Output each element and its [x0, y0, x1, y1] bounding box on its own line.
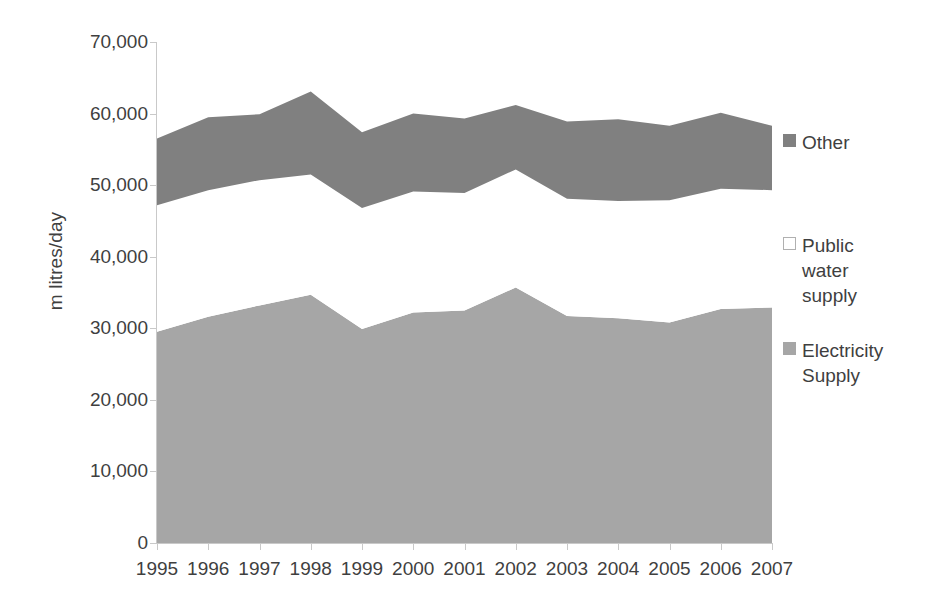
y-tick-mark — [150, 185, 156, 186]
x-tick-label: 2003 — [546, 558, 588, 580]
x-tick-label: 2006 — [700, 558, 742, 580]
x-tick-mark — [516, 544, 517, 550]
y-tick-label: 0 — [0, 532, 148, 554]
x-tick-mark — [362, 544, 363, 550]
legend-swatch-icon — [783, 237, 796, 250]
legend-swatch-icon — [783, 134, 796, 147]
x-tick-mark — [260, 544, 261, 550]
y-tick-mark — [150, 257, 156, 258]
x-tick-label: 2007 — [751, 558, 793, 580]
y-tick-label: 50,000 — [0, 174, 148, 196]
area-series-svg — [157, 42, 772, 543]
legend-entry[interactable]: Other — [783, 130, 850, 155]
stacked-area-chart: m litres/day 70,00060,00050,00040,00030,… — [0, 0, 933, 612]
x-tick-label: 1997 — [238, 558, 280, 580]
x-tick-mark — [311, 544, 312, 550]
y-tick-label: 40,000 — [0, 246, 148, 268]
plot-area — [157, 42, 772, 543]
y-tick-label: 60,000 — [0, 103, 148, 125]
x-tick-label: 2000 — [392, 558, 434, 580]
x-tick-mark — [721, 544, 722, 550]
y-tick-mark — [150, 114, 156, 115]
x-tick-mark — [413, 544, 414, 550]
x-tick-label: 2004 — [597, 558, 639, 580]
y-tick-label: 20,000 — [0, 389, 148, 411]
y-tick-mark — [150, 543, 156, 544]
x-tick-label: 1996 — [187, 558, 229, 580]
legend-label: Public water supply — [802, 233, 857, 308]
x-tick-label: 2005 — [648, 558, 690, 580]
x-tick-mark — [772, 544, 773, 550]
legend-entry[interactable]: Electricity Supply — [783, 338, 883, 388]
x-axis-tick-labels: 1995199619971998199920002001200220032004… — [0, 558, 933, 588]
x-tick-mark — [157, 544, 158, 550]
x-tick-mark — [465, 544, 466, 550]
x-tick-label: 1998 — [290, 558, 332, 580]
x-tick-label: 1995 — [136, 558, 178, 580]
y-tick-mark — [150, 400, 156, 401]
y-tick-label: 30,000 — [0, 317, 148, 339]
legend-swatch-icon — [783, 342, 796, 355]
x-tick-label: 2001 — [443, 558, 485, 580]
y-tick-mark — [150, 42, 156, 43]
y-tick-mark — [150, 471, 156, 472]
legend-entry[interactable]: Public water supply — [783, 233, 857, 308]
x-tick-mark — [208, 544, 209, 550]
x-tick-mark — [618, 544, 619, 550]
y-tick-label: 10,000 — [0, 460, 148, 482]
y-tick-label: 70,000 — [0, 31, 148, 53]
x-tick-mark — [567, 544, 568, 550]
x-tick-label: 2002 — [495, 558, 537, 580]
x-tick-mark — [670, 544, 671, 550]
y-tick-mark — [150, 328, 156, 329]
y-axis-tick-labels: 70,00060,00050,00040,00030,00020,00010,0… — [0, 0, 148, 612]
area-band-electricity-supply — [157, 287, 772, 543]
legend-label: Other — [802, 130, 850, 155]
legend-label: Electricity Supply — [802, 338, 883, 388]
x-tick-label: 1999 — [341, 558, 383, 580]
